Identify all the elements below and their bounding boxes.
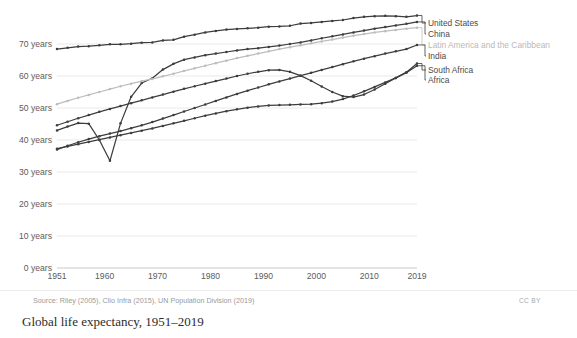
legend-label: China (428, 29, 450, 39)
y-tick-label: 20 years (19, 199, 52, 209)
legend-label: India (428, 51, 446, 61)
x-axis: 19511960197019801990200020102019 (0, 271, 577, 285)
series-india (56, 44, 419, 151)
legend-item-india[interactable]: India (428, 52, 446, 60)
legend-connector (417, 66, 426, 80)
legend-label: Latin America and the Caribbean (428, 40, 550, 50)
chart-legend: United StatesChinaLatin America and the … (428, 0, 577, 80)
y-tick-label: 60 years (19, 71, 52, 81)
legend-label: United States (428, 18, 478, 28)
x-tick-label: 2000 (307, 271, 326, 281)
legend-label: Africa (428, 75, 449, 85)
legend-item-united-states[interactable]: United States (428, 19, 478, 27)
legend-label: South Africa (428, 65, 473, 75)
y-tick-label: 30 years (19, 167, 52, 177)
x-tick-label: 2010 (360, 271, 379, 281)
y-tick-label: 40 years (19, 135, 52, 145)
series-united-states (56, 14, 419, 50)
y-tick-label: 70 years (19, 39, 52, 49)
legend-item-china[interactable]: China (428, 30, 450, 38)
legend-item-south-africa[interactable]: South Africa (428, 66, 473, 74)
x-tick-label: 1990 (254, 271, 273, 281)
x-tick-label: 1970 (148, 271, 167, 281)
legend-item-africa[interactable]: Africa (428, 76, 449, 84)
chart-screenshot: 0 years10 years20 years30 years40 years5… (0, 0, 577, 338)
x-tick-label: 1960 (95, 271, 114, 281)
cc-by-license: CC BY (519, 297, 541, 304)
x-tick-label: 1980 (201, 271, 220, 281)
legend-connector (417, 45, 426, 56)
chart-caption: Global life expectancy, 1951–2019 (22, 314, 204, 330)
source-note: Source: Riley (2005), Clio Infra (2015),… (33, 296, 254, 305)
y-tick-label: 10 years (19, 231, 52, 241)
y-tick-label: 50 years (19, 103, 52, 113)
legend-item-latin-america-and-the-caribbean[interactable]: Latin America and the Caribbean (428, 41, 550, 49)
footer-divider (0, 290, 577, 291)
x-tick-label: 1951 (47, 271, 66, 281)
x-tick-label: 2019 (407, 271, 426, 281)
y-axis: 0 years10 years20 years30 years40 years5… (0, 0, 52, 292)
series-africa (56, 65, 419, 150)
